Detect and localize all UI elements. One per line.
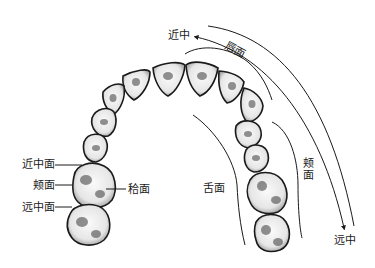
label-occlusal-surface: 秴面 xyxy=(128,184,150,195)
label-mesial: 近中 xyxy=(168,30,190,41)
label-lingual-surface: 舌面 xyxy=(203,183,225,194)
tooth-molar1-left xyxy=(73,163,115,208)
label-buccal-surface: 颊面 xyxy=(33,180,55,191)
label-buccal-char1: 颊 xyxy=(303,157,314,170)
tooth-molar1-right xyxy=(247,173,287,214)
tooth-molar2-right xyxy=(255,215,290,252)
label-buccal-char2: 面 xyxy=(303,169,314,182)
label-buccal-right: 颊 面 xyxy=(302,158,314,182)
tooth-molar2-left xyxy=(67,205,110,245)
label-distal: 远中 xyxy=(334,235,356,246)
label-mesial-surface: 近中面 xyxy=(22,159,55,170)
label-distal-surface: 远中面 xyxy=(22,202,55,213)
dental-arch-diagram: 近中 唇面 颊 面 舌面 远中 近中面 颊面 远中面 秴面 xyxy=(0,0,375,268)
